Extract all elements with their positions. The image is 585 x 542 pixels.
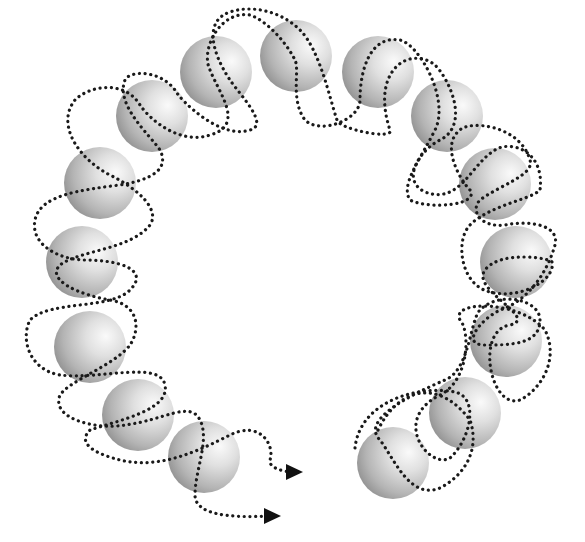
sphere-bead-11 bbox=[64, 147, 136, 219]
arrowhead-upper-icon bbox=[286, 464, 303, 480]
sphere-bead-4 bbox=[480, 226, 552, 298]
sphere-bead-7 bbox=[342, 36, 414, 108]
sphere-bead-3 bbox=[470, 305, 542, 377]
bead-ring-helix-diagram bbox=[0, 0, 585, 542]
arrowhead-lower-icon bbox=[264, 508, 281, 524]
sphere-bead-6 bbox=[411, 80, 483, 152]
sphere-bead-15 bbox=[168, 421, 240, 493]
